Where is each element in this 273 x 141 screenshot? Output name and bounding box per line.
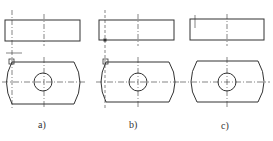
panel-b-drawing [96, 10, 180, 108]
panel-c-drawing [180, 14, 270, 108]
panel-a-drawing [2, 10, 86, 108]
panel-c-label: c) [221, 120, 229, 131]
panel-b-label: b) [129, 119, 137, 130]
panel-a-label: a) [38, 119, 46, 130]
